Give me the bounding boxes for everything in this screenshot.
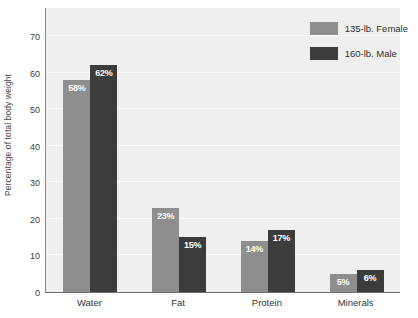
- x-axis-tick-label: Water: [77, 297, 102, 308]
- bar-value-label: 23%: [152, 211, 179, 221]
- y-axis-tick-label: 0: [14, 289, 40, 298]
- x-axis-tick-label: Protein: [252, 297, 282, 308]
- bar: 58%: [63, 80, 90, 292]
- bar: 23%: [152, 208, 179, 292]
- bar: 5%: [330, 274, 357, 292]
- x-axis-tick-label: Minerals: [338, 297, 374, 308]
- bar-value-label: 58%: [63, 83, 90, 93]
- legend-swatch: [310, 47, 338, 60]
- y-axis-tick-label: 40: [14, 143, 40, 152]
- legend: 135-lb. Female160-lb. Male: [310, 22, 408, 60]
- bar-value-label: 15%: [179, 240, 206, 250]
- y-axis-tick-label: 10: [14, 252, 40, 261]
- legend-label: 135-lb. Female: [345, 23, 408, 34]
- legend-swatch: [310, 22, 338, 35]
- legend-item: 160-lb. Male: [310, 47, 408, 60]
- x-axis-tick-labels: WaterFatProteinMinerals: [45, 297, 400, 315]
- y-axis-tick-label: 30: [14, 179, 40, 188]
- y-axis-tick-label: 60: [14, 70, 40, 79]
- bar-value-label: 5%: [330, 277, 357, 287]
- bar-value-label: 6%: [357, 273, 384, 283]
- x-axis-tick-label: Fat: [171, 297, 185, 308]
- y-axis-tick-label: 20: [14, 216, 40, 225]
- bar: 62%: [90, 65, 117, 292]
- bar-value-label: 62%: [90, 68, 117, 78]
- y-axis-tick-label: 50: [14, 106, 40, 115]
- y-axis-tick-label: 70: [14, 33, 40, 42]
- bar: 6%: [357, 270, 384, 292]
- y-axis-tick-labels: 010203040506070: [14, 0, 40, 298]
- bar-value-label: 17%: [268, 233, 295, 243]
- legend-item: 135-lb. Female: [310, 22, 408, 35]
- bar: 17%: [268, 230, 295, 292]
- bar-value-label: 14%: [241, 244, 268, 254]
- bar-chart: Percentage of total body weight 01020304…: [0, 0, 418, 318]
- legend-label: 160-lb. Male: [345, 48, 397, 59]
- bar: 15%: [179, 237, 206, 292]
- bar: 14%: [241, 241, 268, 292]
- y-axis-label: Percentage of total body weight: [3, 9, 13, 261]
